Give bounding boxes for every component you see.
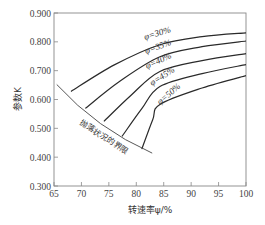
y-tick-label: 0.400 [30,153,52,163]
curve-phi-50 [142,76,246,150]
curve-phi-45 [122,65,246,137]
y-tick-label: 0.600 [30,95,52,105]
x-tick-label: 90 [186,189,196,199]
x-tick-label: 80 [132,189,142,199]
y-tick-label: 0.900 [30,9,52,19]
x-tick-label: 85 [159,189,169,199]
axis-ticks: 657075808590951000.3000.4000.5000.6000.7… [30,9,254,200]
boundary-label: 抛落状况的界限 [78,117,130,156]
y-axis-title: 参数K [12,86,23,111]
x-tick-label: 95 [214,189,224,199]
y-tick-label: 0.700 [30,66,52,76]
x-axis-title: 转速率ψ/% [128,204,173,215]
x-tick-label: 70 [77,189,87,199]
y-tick-label: 0.300 [30,182,52,192]
curve-label: φ=50% [155,81,183,106]
y-tick-label: 0.800 [30,37,52,47]
x-tick-label: 100 [239,189,254,199]
y-tick-label: 0.500 [30,124,52,134]
chart: 657075808590951000.3000.4000.5000.6000.7… [0,0,265,225]
x-tick-label: 75 [104,189,114,199]
